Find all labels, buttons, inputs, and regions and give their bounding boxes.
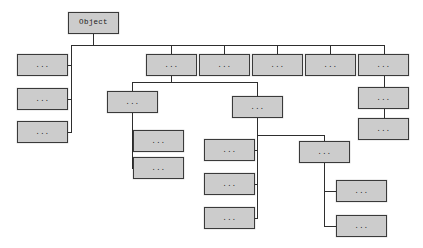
- connector-line: [330, 45, 331, 54]
- tree-node[interactable]: ...: [204, 207, 255, 229]
- node-label: Object: [79, 19, 108, 27]
- tree-node[interactable]: ...: [232, 96, 283, 118]
- node-label: ...: [217, 61, 231, 68]
- connector-line: [71, 45, 72, 132]
- node-label: ...: [35, 128, 49, 135]
- node-label: ...: [376, 61, 390, 68]
- tree-node[interactable]: ...: [17, 54, 68, 76]
- tree-node[interactable]: ...: [358, 54, 409, 76]
- diagram-canvas: Object..................................…: [0, 0, 423, 248]
- connector-line: [384, 45, 385, 54]
- tree-node[interactable]: ...: [199, 54, 250, 76]
- tree-node[interactable]: ...: [358, 118, 409, 140]
- connector-line: [171, 45, 172, 54]
- root-node[interactable]: Object: [68, 12, 119, 34]
- tree-node[interactable]: ...: [336, 215, 387, 237]
- connector-line: [384, 109, 385, 118]
- tree-node[interactable]: ...: [204, 139, 255, 161]
- tree-node[interactable]: ...: [336, 180, 387, 202]
- connector-line: [324, 163, 325, 227]
- connector-line: [132, 82, 133, 91]
- connector-line: [384, 76, 385, 87]
- node-label: ...: [151, 137, 165, 144]
- tree-node[interactable]: ...: [146, 54, 197, 76]
- tree-node[interactable]: ...: [17, 88, 68, 110]
- connector-line: [257, 135, 258, 219]
- node-label: ...: [354, 222, 368, 229]
- node-label: ...: [222, 214, 236, 221]
- connector-line: [255, 218, 258, 219]
- connector-line: [277, 45, 278, 54]
- connector-line: [257, 82, 258, 96]
- tree-node[interactable]: ...: [17, 121, 68, 143]
- node-label: ...: [270, 61, 284, 68]
- connector-line: [71, 45, 384, 46]
- node-label: ...: [222, 180, 236, 187]
- tree-node[interactable]: ...: [204, 173, 255, 195]
- node-label: ...: [151, 164, 165, 171]
- node-label: ...: [354, 187, 368, 194]
- tree-node[interactable]: ...: [133, 157, 184, 179]
- node-label: ...: [125, 98, 139, 105]
- tree-node[interactable]: ...: [358, 87, 409, 109]
- node-label: ...: [376, 94, 390, 101]
- connector-line: [68, 65, 72, 66]
- tree-node[interactable]: ...: [305, 54, 356, 76]
- tree-node[interactable]: ...: [133, 130, 184, 152]
- tree-node[interactable]: ...: [252, 54, 303, 76]
- node-label: ...: [35, 95, 49, 102]
- connector-line: [255, 184, 258, 185]
- tree-node[interactable]: ...: [299, 141, 350, 163]
- node-label: ...: [376, 125, 390, 132]
- connector-line: [255, 150, 258, 151]
- connector-line: [132, 82, 258, 83]
- connector-line: [257, 118, 258, 136]
- node-label: ...: [164, 61, 178, 68]
- tree-node[interactable]: ...: [107, 91, 158, 113]
- connector-line: [257, 135, 325, 136]
- connector-line: [224, 45, 225, 54]
- node-label: ...: [323, 61, 337, 68]
- node-label: ...: [317, 148, 331, 155]
- connector-line: [68, 132, 72, 133]
- node-label: ...: [222, 146, 236, 153]
- connector-line: [68, 99, 72, 100]
- node-label: ...: [250, 103, 264, 110]
- node-label: ...: [35, 61, 49, 68]
